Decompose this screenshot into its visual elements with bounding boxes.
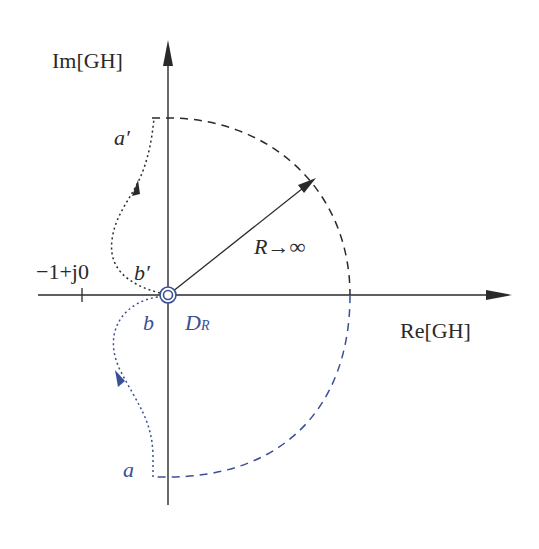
- lower-path-arrow-icon: [115, 370, 125, 387]
- nyquist-diagram: Im[GH] Re[GH] −1+j0 a′ b′ b a R→∞ DR: [0, 0, 539, 549]
- a-prime-label: a′: [114, 125, 131, 150]
- imag-axis-label: Im[GH]: [52, 48, 123, 73]
- a-label: a: [123, 457, 134, 482]
- d-r-label: DR: [184, 310, 210, 335]
- radius-label: R→∞: [253, 234, 305, 259]
- minus-one-label: −1+j0: [36, 259, 89, 284]
- b-label: b: [143, 310, 154, 335]
- infinite-arc-lower: [152, 295, 350, 477]
- infinite-arc-upper: [152, 118, 350, 295]
- upper-path-arrow-icon: [132, 180, 140, 196]
- b-prime-label: b′: [134, 260, 151, 285]
- real-axis-arrow-icon: [486, 290, 512, 300]
- imag-axis-arrow-icon: [163, 40, 173, 66]
- origin-outer-circle: [160, 287, 176, 303]
- real-axis-label: Re[GH]: [400, 318, 471, 343]
